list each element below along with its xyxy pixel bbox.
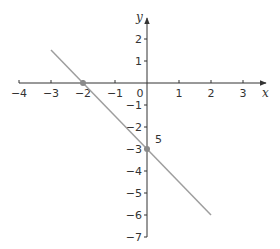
y-tick-label: −1 [126,99,142,112]
coordinate-plane: −4−3−2−10123 21−1−2−3−4−5−6−7 x y 5 [0,0,280,249]
x-tick-label: −3 [43,87,59,100]
x-tick-label: −1 [107,87,123,100]
y-tick-label: 1 [135,55,142,68]
y-tick-label: −2 [126,121,142,134]
x-tick-label: −4 [11,87,27,100]
y-tick-label: −5 [126,187,142,200]
x-axis-label: x [262,86,269,100]
data-point [80,80,86,86]
point-annotation: 5 [155,133,162,146]
y-tick-label: 2 [135,33,142,46]
y-tick-label: −3 [126,143,142,156]
x-tick-label: 3 [240,87,247,100]
data-point [144,146,150,152]
y-tick-label: −4 [126,165,142,178]
x-tick-label: 1 [176,87,183,100]
y-tick-label: −7 [126,231,142,244]
y-tick-label: −6 [126,209,142,222]
y-axis-label: y [135,10,143,24]
x-tick-label: 2 [208,87,215,100]
